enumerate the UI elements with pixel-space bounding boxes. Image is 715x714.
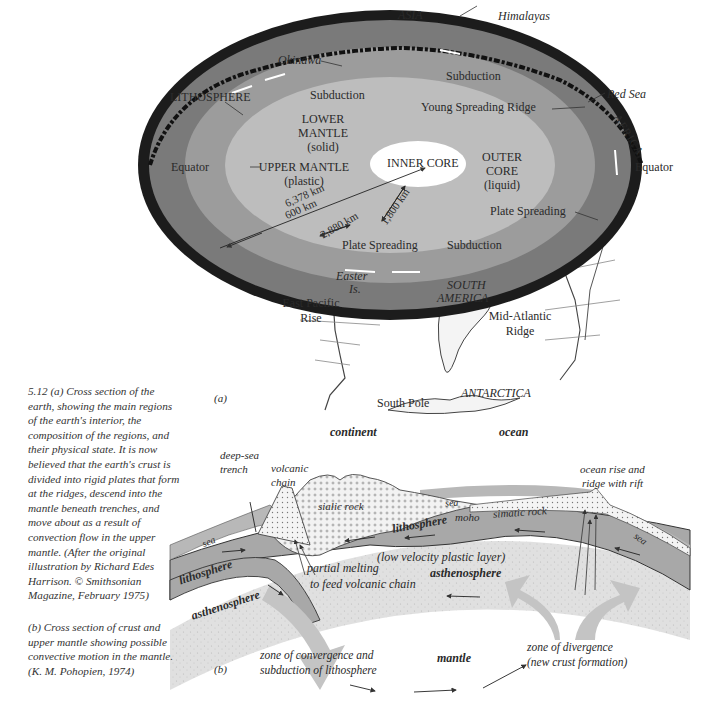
label-inner-core: INNER CORE [387, 156, 459, 171]
label-lithosphere: LITHOSPHERE [170, 90, 251, 105]
panel-label-b: (b) [214, 663, 227, 675]
label-ocean-rise-ridge: ocean rise and ridge with rift [560, 462, 665, 490]
label-outer-core: OUTER CORE (liquid) [472, 150, 532, 192]
label-red-sea: Red Sea [607, 87, 646, 102]
label-young-spreading-ridge: Young Spreading Ridge [421, 100, 536, 115]
label-equator-left: Equator [171, 160, 209, 175]
label-plate-spreading-right: Plate Spreading [490, 204, 566, 219]
label-continent: continent [330, 425, 377, 440]
label-okinawa: Okinawa [278, 53, 321, 68]
label-sea-mid: sea [445, 497, 459, 509]
label-moho: moho [455, 511, 479, 523]
label-zone-convergence: zone of convergence and subduction of li… [260, 648, 376, 678]
caption-b: (b) Cross section of crust and upper man… [28, 620, 208, 678]
panel-label-a: (a) [214, 392, 227, 404]
label-plate-spreading-bottom: Plate Spreading [342, 238, 418, 253]
label-equator-right: Equator [635, 160, 673, 175]
label-volcanic-chain: volcanic chain [271, 461, 308, 489]
label-subduction-top-left: Subduction [310, 88, 365, 103]
label-sialic-rock: sialic rock [318, 500, 364, 512]
label-subduction-top-right: Subduction [446, 69, 501, 84]
label-antarctica: ANTARCTICA [461, 386, 531, 401]
caption-a: 5.12 (a) Cross section of the earth, sho… [28, 384, 208, 603]
earth-cross-section-diagram [0, 0, 715, 714]
label-mid-atlantic-ridge: Mid-Atlantic Ridge [480, 309, 560, 339]
label-asia: ASIA [398, 8, 423, 23]
label-south-america: SOUTH AMERICA [437, 279, 488, 305]
label-subduction-bottom: Subduction [447, 238, 502, 253]
label-ocean: ocean [499, 425, 528, 440]
label-lower-mantle: LOWER MANTLE (solid) [283, 112, 363, 154]
label-partial-melting: partial melting to feed volcanic chain [307, 560, 416, 592]
label-asthenosphere-right: asthenosphere [430, 566, 501, 581]
label-deep-sea-trench: deep-sea trench [220, 448, 259, 476]
label-upper-mantle: UPPER MANTLE (plastic) [254, 160, 354, 188]
label-east-pacific-rise: East Pacific Rise [275, 296, 347, 326]
label-himalayas: Himalayas [498, 9, 550, 24]
label-easter-island: Easter Is. [336, 270, 367, 296]
label-zone-divergence: zone of divergence (new crust formation) [527, 640, 627, 670]
label-mantle: mantle [437, 651, 471, 666]
label-south-pole: South Pole [377, 396, 429, 411]
